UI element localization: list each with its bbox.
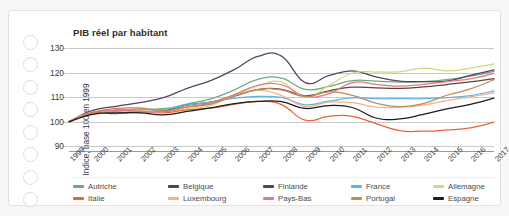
legend-swatch-icon — [263, 185, 274, 187]
legend-item-finlande[interactable]: Finlande — [263, 182, 308, 191]
legend-item-autriche[interactable]: Autriche — [73, 182, 117, 191]
binder-hole — [23, 80, 38, 95]
legend-swatch-icon — [73, 197, 84, 199]
legend-swatch-icon — [351, 197, 362, 199]
binder-holes — [21, 35, 47, 207]
legend-label: Luxembourg — [183, 194, 226, 203]
legend-label: France — [366, 182, 390, 191]
legend-swatch-icon — [73, 185, 84, 187]
binder-hole — [23, 57, 38, 72]
legend-item-france[interactable]: France — [351, 182, 390, 191]
legend-label: Portugal — [366, 194, 395, 203]
y-tick-label: 110 — [51, 92, 64, 102]
x-tick-label: 2017 — [493, 145, 509, 163]
legend-label: Autriche — [88, 182, 117, 191]
legend-label: Italie — [88, 194, 104, 203]
legend-item-italie[interactable]: Italie — [73, 194, 104, 203]
legend-swatch-icon — [263, 197, 274, 199]
chart-legend: AutricheBelgiqueFinlandeFranceAllemagneI… — [73, 182, 493, 208]
chart-title: PIB réel par habitant — [73, 27, 167, 38]
legend-swatch-icon — [433, 185, 444, 187]
series-line-luxembourg — [69, 90, 494, 121]
legend-item-belgique[interactable]: Belgique — [168, 182, 213, 191]
y-tick-label: 120 — [50, 68, 64, 78]
series-lines — [69, 41, 494, 151]
legend-label: Belgique — [183, 182, 213, 191]
binder-hole — [23, 125, 38, 140]
binder-hole — [23, 102, 38, 117]
y-tick-label: 90 — [55, 141, 64, 151]
binder-hole — [23, 147, 38, 162]
y-tick-label: 100 — [50, 117, 64, 127]
chart-card: PIB réel par habitant Indice, base 100 e… — [8, 10, 501, 206]
binder-hole — [23, 170, 38, 185]
legend-swatch-icon — [351, 185, 362, 187]
legend-item-espagne[interactable]: Espagne — [433, 194, 479, 203]
plot-area: Indice, base 100 en 1999 90100110120130 — [69, 41, 494, 151]
screenshot-root: PIB réel par habitant Indice, base 100 e… — [0, 0, 509, 216]
binder-hole — [23, 192, 38, 207]
legend-item-portugal[interactable]: Portugal — [351, 194, 395, 203]
series-line-autriche — [69, 71, 494, 121]
legend-divider — [71, 177, 495, 178]
legend-item-allemagne[interactable]: Allemagne — [433, 182, 485, 191]
legend-label: Espagne — [448, 194, 479, 203]
legend-swatch-icon — [168, 197, 179, 199]
legend-swatch-icon — [433, 197, 444, 199]
legend-label: Allemagne — [448, 182, 485, 191]
binder-hole — [23, 35, 38, 50]
series-line-italie — [69, 101, 494, 131]
legend-swatch-icon — [168, 185, 179, 187]
y-tick-label: 130 — [50, 43, 64, 53]
legend-item-pays-bas[interactable]: Pays-Bas — [263, 194, 311, 203]
legend-label: Finlande — [278, 182, 308, 191]
legend-item-luxembourg[interactable]: Luxembourg — [168, 194, 226, 203]
legend-label: Pays-Bas — [278, 194, 311, 203]
